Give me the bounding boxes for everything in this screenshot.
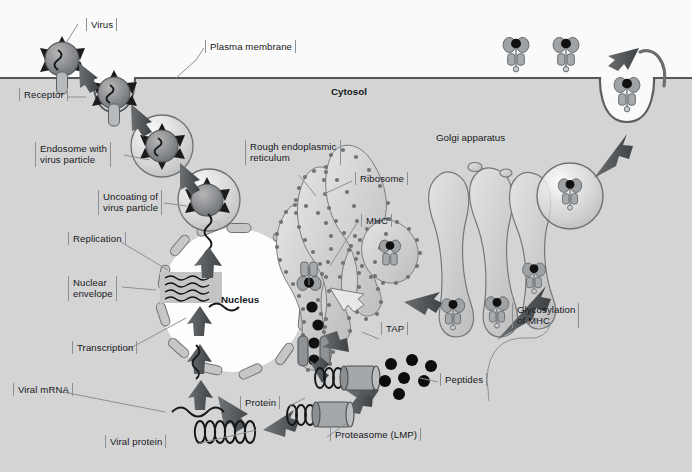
receptor-bound — [109, 104, 120, 126]
label-nuclear-envelope: Nuclear envelope — [68, 276, 117, 301]
label-uncoating: Uncoating of virus particle — [98, 190, 162, 215]
golgi-vesicle-b — [500, 169, 512, 177]
label-peptides: Peptides — [440, 373, 487, 386]
label-transcription: Transcription — [72, 341, 137, 354]
label-viral-mrna: Viral mRNA — [13, 383, 73, 396]
label-viral-protein: Viral protein — [105, 435, 166, 448]
label-tap: TAP — [381, 322, 408, 335]
figure-canvas: Virus Plasma membrane Cytosol Receptor E… — [0, 0, 692, 472]
label-glycosylation: Glycosylation of MHC — [512, 303, 579, 328]
label-replication: Replication — [68, 232, 126, 245]
label-mhc: MHC — [361, 214, 392, 227]
label-virus: Virus — [86, 18, 117, 31]
label-plasma-membrane: Plasma membrane — [205, 40, 296, 53]
transport-vesicle — [537, 163, 603, 229]
label-protein: Protein — [240, 396, 280, 409]
label-rough-er: Rough endoplasmic reticulum — [245, 140, 341, 165]
golgi-vesicle-a — [468, 163, 482, 172]
label-endosome: Endosome with virus particle — [35, 142, 111, 167]
label-ribosome: Ribosome — [355, 172, 408, 185]
label-cytosol: Cytosol — [331, 86, 367, 97]
proteasome-barrel-lower — [312, 402, 354, 427]
proteasome-barrel-upper — [340, 366, 380, 390]
label-nucleus: Nucleus — [221, 294, 259, 305]
label-proteasome: Proteasome (LMP) — [330, 428, 421, 441]
label-golgi: Golgi apparatus — [436, 132, 505, 143]
label-receptor: Receptor — [19, 88, 68, 101]
